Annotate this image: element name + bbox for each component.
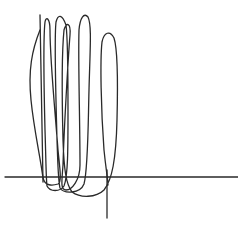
- scribble-drawing: [0, 0, 238, 229]
- drawing-background: [0, 0, 238, 229]
